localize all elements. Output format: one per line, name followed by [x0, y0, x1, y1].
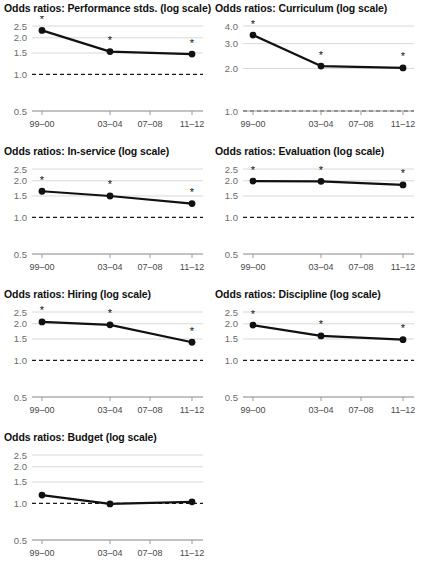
significance-star: * [190, 325, 195, 337]
y-axis-tick-label: 0.5 [14, 535, 27, 546]
data-point-marker [250, 178, 257, 185]
y-axis-tick-label: 1.0 [225, 212, 238, 223]
x-axis-tick-label: 07–08 [348, 262, 373, 272]
chart-panel-performance-stds: Odds ratios: Performance stds. (log scal… [0, 0, 210, 143]
series-line [42, 495, 192, 504]
x-axis-tick-label: 11–12 [180, 119, 204, 129]
x-axis-tick-label: 99–00 [240, 262, 265, 272]
y-axis-tick-label: 2.5 [14, 21, 27, 32]
data-point-marker [250, 322, 257, 329]
series-line [42, 191, 192, 203]
x-axis-tick-label: 07–08 [348, 119, 373, 129]
chart-panel-budget: Odds ratios: Budget (log scale)2.52.01.5… [0, 429, 210, 572]
data-point-marker [318, 333, 325, 340]
y-axis-tick-label: 2.0 [225, 63, 238, 74]
y-axis-tick-label: 4.0 [225, 21, 238, 32]
x-axis-tick-label: 99–00 [29, 119, 54, 129]
y-axis-tick-label: 1.5 [14, 333, 27, 344]
y-axis-tick-label: 1.0 [225, 106, 238, 117]
chart-panel-in-service: Odds ratios: In-service (log scale)2.52.… [0, 143, 210, 286]
x-axis-tick-label: 11–12 [180, 262, 204, 272]
significance-star: * [251, 308, 256, 320]
y-axis-tick-label: 0.5 [225, 249, 238, 260]
y-axis-tick-label: 2.0 [14, 175, 27, 186]
y-axis-tick-label: 0.5 [14, 106, 27, 117]
x-axis-tick-label: 03–04 [97, 405, 122, 415]
plot-area: 2.52.01.51.00.599–0003–0407–0811–12*** [211, 302, 421, 429]
significance-star: * [401, 167, 406, 179]
panel-title: Odds ratios: Performance stds. (log scal… [4, 2, 211, 14]
significance-star: * [251, 18, 256, 30]
significance-star: * [108, 34, 113, 46]
plot-area: 4.03.02.01.099–0003–0407–0811–12*** [211, 16, 421, 143]
y-axis-tick-label: 2.0 [225, 318, 238, 329]
data-point-marker [400, 182, 407, 189]
y-axis-tick-label: 1.5 [225, 333, 238, 344]
plot-area: 2.52.01.51.00.599–0003–0407–0811–12 [0, 445, 210, 572]
x-axis-tick-label: 03–04 [308, 262, 333, 272]
y-axis-tick-label: 2.5 [14, 164, 27, 175]
y-axis-tick-label: 1.5 [14, 47, 27, 58]
y-axis-tick-label: 3.0 [225, 38, 238, 49]
panel-title: Odds ratios: In-service (log scale) [4, 145, 169, 157]
significance-star: * [319, 49, 324, 61]
y-axis-tick-label: 2.5 [14, 307, 27, 318]
x-axis-tick-label: 11–12 [180, 405, 204, 415]
panel-title: Odds ratios: Budget (log scale) [4, 431, 157, 443]
y-axis-tick-label: 2.5 [225, 164, 238, 175]
significance-star: * [251, 164, 256, 176]
odds-ratio-panel-grid: Odds ratios: Performance stds. (log scal… [0, 0, 421, 572]
y-axis-tick-label: 1.5 [225, 190, 238, 201]
data-point-marker [107, 193, 114, 200]
x-axis-tick-label: 99–00 [240, 119, 265, 129]
significance-star: * [40, 16, 45, 25]
panel-title: Odds ratios: Evaluation (log scale) [215, 145, 384, 157]
x-axis-tick-label: 03–04 [97, 548, 122, 558]
significance-star: * [40, 174, 45, 186]
x-axis-tick-label: 03–04 [97, 119, 122, 129]
plot-area: 2.52.01.51.00.599–0003–0407–0811–12*** [0, 302, 210, 429]
data-point-marker [250, 32, 257, 39]
y-axis-tick-label: 1.5 [14, 190, 27, 201]
chart-panel-curriculum: Odds ratios: Curriculum (log scale)4.03.… [211, 0, 421, 143]
data-point-marker [400, 336, 407, 343]
y-axis-tick-label: 2.5 [14, 450, 27, 461]
x-axis-tick-label: 11–12 [180, 548, 204, 558]
data-point-marker [39, 188, 46, 195]
panel-title: Odds ratios: Hiring (log scale) [4, 288, 151, 300]
data-point-marker [39, 492, 46, 499]
series-line [253, 325, 403, 340]
data-point-marker [318, 63, 325, 70]
y-axis-tick-label: 2.0 [14, 318, 27, 329]
y-axis-tick-label: 1.0 [225, 355, 238, 366]
y-axis-tick-label: 2.0 [14, 461, 27, 472]
data-point-marker [107, 501, 114, 508]
y-axis-tick-label: 0.5 [14, 392, 27, 403]
significance-star: * [190, 186, 195, 198]
x-axis-tick-label: 99–00 [29, 548, 54, 558]
x-axis-tick-label: 03–04 [308, 119, 333, 129]
significance-star: * [401, 50, 406, 62]
x-axis-tick-label: 11–12 [391, 405, 415, 415]
data-point-marker [189, 200, 196, 207]
x-axis-tick-label: 99–00 [29, 262, 54, 272]
significance-star: * [319, 164, 324, 176]
significance-star: * [401, 322, 406, 334]
data-point-marker [400, 64, 407, 71]
data-point-marker [189, 339, 196, 346]
panel-title: Odds ratios: Curriculum (log scale) [215, 2, 387, 14]
significance-star: * [108, 307, 113, 319]
plot-area: 2.52.01.51.00.599–0003–0407–0811–12*** [211, 159, 421, 286]
significance-star: * [190, 37, 195, 49]
x-axis-tick-label: 07–08 [137, 262, 162, 272]
series-line [42, 30, 192, 54]
y-axis-tick-label: 1.5 [14, 476, 27, 487]
x-axis-tick-label: 99–00 [29, 405, 54, 415]
significance-star: * [108, 178, 113, 190]
plot-area: 2.52.01.51.00.599–0003–0407–0811–12*** [0, 16, 210, 143]
chart-panel-discipline: Odds ratios: Discipline (log scale)2.52.… [211, 286, 421, 429]
x-axis-tick-label: 07–08 [348, 405, 373, 415]
y-axis-tick-label: 1.0 [14, 212, 27, 223]
data-point-marker [107, 48, 114, 55]
data-point-marker [107, 321, 114, 328]
